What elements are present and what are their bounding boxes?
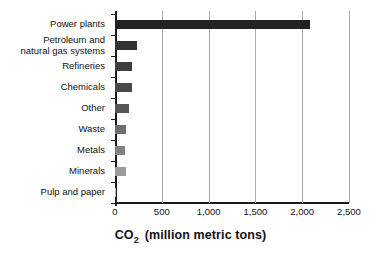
category-label: Power plants — [0, 14, 110, 35]
y-tick-mark — [111, 119, 115, 120]
x-tick-label: 1,000 — [197, 206, 221, 217]
y-tick-mark — [111, 35, 115, 36]
x-axis-title-prefix: CO — [115, 228, 134, 242]
bar — [115, 62, 132, 71]
bar-row — [115, 119, 349, 140]
y-tick-mark — [111, 203, 115, 204]
category-label: Refineries — [0, 56, 110, 77]
y-tick-mark — [111, 182, 115, 183]
bar-row — [115, 14, 349, 35]
bar — [115, 125, 126, 134]
bar — [115, 83, 132, 92]
x-tick-label: 1,500 — [244, 206, 268, 217]
y-tick-mark — [111, 56, 115, 57]
co2-emissions-bar-chart: Power plantsPetroleum and natural gas sy… — [0, 0, 381, 260]
bar-row — [115, 35, 349, 56]
category-label: Pulp and paper — [0, 182, 110, 203]
x-tick-label: 500 — [154, 206, 170, 217]
bar-row — [115, 77, 349, 98]
bar-series — [115, 14, 349, 203]
category-label: Waste — [0, 119, 110, 140]
category-label: Chemicals — [0, 77, 110, 98]
category-label: Petroleum and natural gas systems — [0, 35, 110, 56]
bar — [115, 104, 129, 113]
x-axis-title: CO2(million metric tons) — [0, 228, 381, 245]
bar — [115, 188, 116, 197]
y-tick-mark — [111, 98, 115, 99]
category-label: Other — [0, 98, 110, 119]
x-axis-title-suffix: (million metric tons) — [145, 228, 267, 242]
y-tick-mark — [111, 140, 115, 141]
x-axis-title-subscript: 2 — [134, 235, 139, 245]
bar-row — [115, 182, 349, 203]
bar-row — [115, 98, 349, 119]
bar-row — [115, 140, 349, 161]
plot-area: 05001,0001,5002,0002,500 — [115, 14, 349, 203]
bar-row — [115, 56, 349, 77]
y-tick-mark — [111, 161, 115, 162]
y-tick-mark — [111, 14, 115, 15]
x-tick-label: 0 — [112, 206, 117, 217]
y-tick-mark — [111, 77, 115, 78]
category-label: Metals — [0, 140, 110, 161]
x-tick-label: 2,000 — [290, 206, 314, 217]
bar — [115, 146, 125, 155]
bar — [115, 167, 126, 176]
gridline — [349, 11, 350, 203]
category-axis: Power plantsPetroleum and natural gas sy… — [0, 14, 110, 203]
bar — [115, 41, 137, 50]
category-label: Minerals — [0, 161, 110, 182]
bar-row — [115, 161, 349, 182]
x-tick-label: 2,500 — [337, 206, 361, 217]
bar — [115, 20, 310, 29]
